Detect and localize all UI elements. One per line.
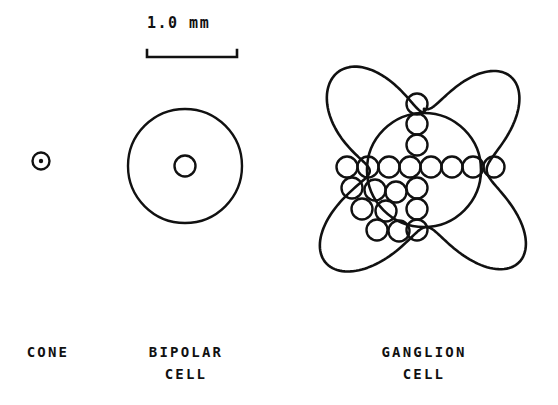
ganglion-vesicle-circle (407, 135, 428, 156)
cone-center-dot-icon (39, 159, 43, 163)
ganglion-vesicle-circle (386, 182, 407, 203)
ganglion-vesicle-circle (421, 157, 442, 178)
caption-ganglion-line2: CELL (348, 366, 500, 382)
ganglion-vesicle-circle (442, 157, 463, 178)
ganglion-vesicle-circle (407, 114, 428, 135)
scale-bar-group (147, 50, 237, 57)
ganglion-dendritic-field-outline (320, 67, 526, 272)
ganglion-vesicle-cluster (337, 94, 505, 242)
ganglion-vesicle-circle (342, 178, 363, 199)
bipolar-cell-soma-outline (175, 156, 196, 177)
cone-cell-group (33, 153, 50, 170)
ganglion-vesicle-circle (367, 220, 388, 241)
ganglion-vesicle-circle (337, 157, 358, 178)
ganglion-vesicle-circle (400, 157, 421, 178)
caption-bipolar-line2: CELL (116, 366, 256, 382)
bipolar-cell-group (128, 109, 242, 223)
ganglion-vesicle-circle (407, 178, 428, 199)
caption-bipolar-line1: BIPOLAR (116, 344, 256, 360)
caption-ganglion-line1: GANGLION (348, 344, 500, 360)
ganglion-vesicle-circle (352, 199, 373, 220)
bipolar-cell-outline (128, 109, 242, 223)
ganglion-cell-group (320, 67, 526, 272)
ganglion-vesicle-circle (379, 157, 400, 178)
caption-cone-line1: CONE (0, 344, 96, 360)
ganglion-vesicle-circle (407, 199, 428, 220)
scale-bar-line (147, 50, 237, 57)
ganglion-vesicle-circle (407, 94, 428, 115)
